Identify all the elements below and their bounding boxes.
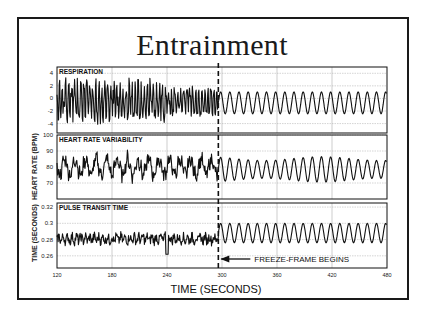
x-tick-label: 180 bbox=[107, 272, 116, 278]
x-tick-label: 240 bbox=[162, 272, 171, 278]
y-tick-label: 0.3 bbox=[45, 220, 54, 226]
panel-title: PULSE TRANSIT TIME bbox=[59, 204, 129, 211]
y-tick-label: 100 bbox=[43, 132, 54, 138]
entrainment-chart: 420-2-4RESPIRATION100908070HEART RATE VA… bbox=[0, 0, 424, 315]
panel-title: RESPIRATION bbox=[59, 68, 103, 75]
y-tick-label: 0.32 bbox=[41, 204, 53, 210]
x-axis-label: TIME (SECONDS) bbox=[0, 283, 424, 295]
panel-3-ylabel: TIME (SECONDS) bbox=[31, 204, 38, 262]
panel-2-ylabel: HEART RATE (BPM) bbox=[31, 133, 38, 200]
x-tick-label: 120 bbox=[52, 272, 61, 278]
x-tick-label: 360 bbox=[272, 272, 281, 278]
y-tick-label: 0.28 bbox=[41, 237, 53, 243]
x-tick-label: 300 bbox=[217, 272, 226, 278]
y-tick-label: 80 bbox=[46, 164, 53, 170]
y-tick-label: -2 bbox=[48, 108, 54, 114]
y-tick-label: 0 bbox=[50, 95, 54, 101]
y-tick-label: -4 bbox=[48, 121, 54, 127]
x-tick-label: 480 bbox=[382, 272, 391, 278]
panel-2: 100908070HEART RATE VARIABILITY bbox=[43, 132, 387, 199]
y-tick-label: 2 bbox=[50, 83, 54, 89]
freeze-frame-label: FREEZE-FRAME BEGINS bbox=[254, 255, 349, 264]
y-tick-label: 70 bbox=[46, 180, 53, 186]
panel-1: 420-2-4RESPIRATION bbox=[48, 67, 387, 133]
panel-title: HEART RATE VARIABILITY bbox=[59, 136, 143, 143]
y-tick-label: 0.26 bbox=[41, 253, 53, 259]
y-tick-label: 4 bbox=[50, 70, 54, 76]
x-tick-label: 420 bbox=[327, 272, 336, 278]
y-tick-label: 90 bbox=[46, 148, 53, 154]
